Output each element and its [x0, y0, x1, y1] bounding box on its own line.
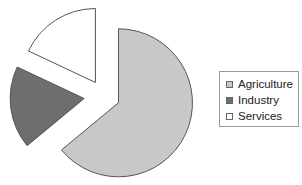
legend-swatch-industry: [226, 97, 233, 104]
legend-label-industry: Industry: [238, 94, 279, 106]
legend-swatch-services: [226, 113, 233, 120]
legend-item-agriculture: Agriculture: [226, 76, 293, 92]
legend-label-services: Services: [238, 110, 282, 122]
pie-slice-services: [28, 8, 95, 82]
legend: Agriculture Industry Services: [219, 71, 299, 127]
legend-item-industry: Industry: [226, 92, 279, 108]
legend-item-services: Services: [226, 108, 282, 124]
pie-slice-industry: [10, 67, 84, 146]
legend-label-agriculture: Agriculture: [238, 78, 293, 90]
legend-swatch-agriculture: [226, 81, 233, 88]
